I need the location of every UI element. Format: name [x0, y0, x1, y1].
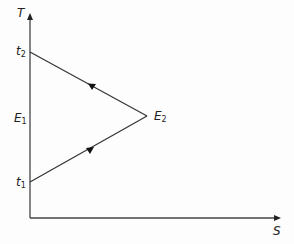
point-label-e2: E2 — [154, 110, 167, 124]
ts-diagram: T t2 E1 t1 E2 S — [0, 0, 294, 244]
s-axis-arrow-icon — [274, 215, 281, 221]
point-label-t1: t1 — [16, 176, 26, 190]
t-axis-label: T — [17, 7, 24, 19]
point-label-e1: E1 — [14, 112, 27, 126]
t-axis-arrow-icon — [27, 13, 33, 20]
direction-arrow-bottom-icon — [86, 147, 94, 154]
point-label-t2: t2 — [16, 45, 26, 59]
direction-arrow-top-icon — [88, 84, 96, 91]
diagram-canvas — [0, 0, 294, 244]
s-axis-label: S — [273, 225, 281, 237]
